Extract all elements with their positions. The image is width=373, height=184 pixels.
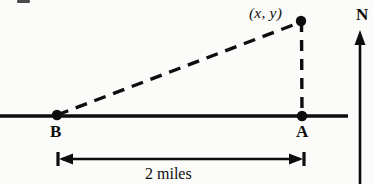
diagram-canvas	[0, 0, 373, 184]
point-a-marker	[297, 111, 307, 121]
dimension-arrowhead-right	[289, 154, 303, 165]
point-xy-label: (x, y)	[249, 5, 282, 21]
point-a-label: A	[296, 123, 308, 140]
point-b-label: B	[50, 123, 61, 140]
hypotenuse-dashed-line	[57, 22, 301, 115]
geometry-figure: (x, y) B A 2 miles N	[0, 0, 373, 184]
dimension-arrowhead-left	[59, 154, 73, 165]
point-b-marker	[52, 110, 62, 120]
point-xy-marker	[296, 16, 306, 26]
north-label: N	[356, 6, 368, 23]
north-arrow-head	[355, 30, 366, 45]
vertical-leg-dashed-line	[302, 21, 303, 116]
dimension-label: 2 miles	[145, 166, 192, 182]
